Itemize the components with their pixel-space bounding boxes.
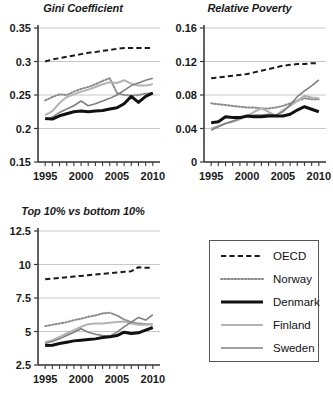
plot-top-bottom-decile: 2.557.51012.51995200020052010 — [0, 203, 166, 406]
x-tick-label: 2010 — [307, 170, 331, 182]
legend-key-finland-icon — [220, 319, 264, 331]
legend-label: Sweden — [273, 342, 315, 354]
series-line-oecd — [45, 48, 153, 61]
x-tick-label: 1995 — [33, 170, 57, 182]
series-line-norway — [45, 78, 153, 100]
y-tick-label: 0.2 — [16, 123, 31, 135]
legend-label: Norway — [273, 273, 312, 285]
panel-relative-poverty: Relative Poverty 00.040.080.120.16199520… — [166, 0, 333, 203]
y-tick-label: 0.04 — [176, 123, 198, 135]
plot-relative-poverty: 00.040.080.120.161995200020052010 — [166, 0, 333, 203]
series-line-oecd — [211, 63, 319, 78]
plot-gini-coefficient: 0.150.20.250.30.351995200020052010 — [0, 0, 166, 203]
x-tick-label: 1995 — [33, 373, 57, 385]
series-line-denmark — [45, 93, 153, 119]
y-tick-label: 10 — [19, 259, 31, 271]
legend-label: Finland — [273, 319, 311, 331]
x-tick-label: 2005 — [105, 170, 129, 182]
x-tick-label: 2000 — [69, 373, 93, 385]
y-tick-label: 0.15 — [10, 156, 31, 168]
y-tick-label: 12.5 — [10, 225, 31, 237]
x-tick-label: 2010 — [141, 373, 165, 385]
x-tick-label: 2000 — [69, 170, 93, 182]
y-tick-label: 0.3 — [16, 56, 31, 68]
y-tick-label: 0.35 — [10, 22, 31, 34]
legend-item-denmark[interactable]: Denmark — [220, 296, 320, 308]
panel-gini-coefficient: Gini Coefficient 0.150.20.250.30.3519952… — [0, 0, 166, 203]
x-tick-label: 2000 — [235, 170, 259, 182]
legend-key-oecd-icon — [220, 250, 264, 262]
legend-box: OECDNorwayDenmarkFinlandSweden — [209, 240, 319, 362]
legend-key-norway-icon — [220, 273, 264, 285]
figure-panel-grid: Gini Coefficient 0.150.20.250.30.3519952… — [0, 0, 333, 406]
x-tick-label: 2005 — [105, 373, 129, 385]
legend-key-denmark-icon — [220, 296, 264, 308]
legend-item-norway[interactable]: Norway — [220, 273, 312, 285]
y-tick-label: 0 — [191, 156, 197, 168]
legend-item-sweden[interactable]: Sweden — [220, 342, 315, 354]
y-tick-label: 0.16 — [176, 22, 197, 34]
legend-label: Denmark — [273, 296, 320, 308]
panel-top-bottom-decile: Top 10% vs bottom 10% 2.557.51012.519952… — [0, 203, 166, 406]
x-tick-label: 1995 — [199, 170, 223, 182]
x-tick-label: 2005 — [271, 170, 295, 182]
legend-key-sweden-icon — [220, 342, 264, 354]
series-line-oecd — [45, 267, 153, 279]
y-tick-label: 0.25 — [10, 89, 31, 101]
panel-legend: OECDNorwayDenmarkFinlandSweden — [166, 203, 333, 406]
y-tick-label: 5 — [25, 326, 31, 338]
legend-label: OECD — [273, 250, 306, 262]
x-tick-label: 2010 — [141, 170, 165, 182]
y-tick-label: 0.08 — [176, 89, 197, 101]
y-tick-label: 2.5 — [16, 359, 31, 371]
legend-item-oecd[interactable]: OECD — [220, 250, 306, 262]
y-tick-label: 7.5 — [16, 292, 31, 304]
legend-item-finland[interactable]: Finland — [220, 319, 311, 331]
y-tick-label: 0.12 — [176, 56, 197, 68]
